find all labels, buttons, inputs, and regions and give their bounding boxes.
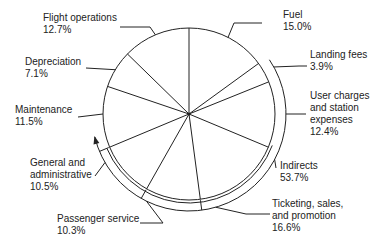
label-maintenance: Maintenance 11.5% bbox=[15, 104, 72, 128]
leader-maintenance bbox=[78, 114, 103, 117]
arrow-icon bbox=[93, 136, 99, 144]
label-fuel: Fuel 15.0% bbox=[283, 9, 311, 33]
label-user-charges: User charges and station expenses 12.4% bbox=[310, 90, 369, 138]
leader-flight bbox=[120, 27, 155, 35]
leader-landing-fees bbox=[274, 66, 307, 67]
label-landing-fees: Landing fees 3.9% bbox=[310, 49, 367, 73]
label-general-admin: General and administrative 10.5% bbox=[30, 157, 92, 193]
pie-body bbox=[103, 28, 275, 200]
label-ticketing: Ticketing, sales, and promotion 16.6% bbox=[272, 198, 343, 234]
leader-fuel bbox=[228, 23, 262, 37]
leader-indirects bbox=[275, 160, 276, 168]
leader-general bbox=[95, 163, 105, 177]
label-flight-operations: Flight operations 12.7% bbox=[43, 12, 117, 36]
leader-depreciation bbox=[86, 68, 115, 70]
label-depreciation: Depreciation 7.1% bbox=[25, 56, 81, 80]
label-passenger-service: Passenger service 10.3% bbox=[57, 213, 139, 237]
leader-passenger bbox=[140, 201, 163, 223]
leader-ticketing bbox=[216, 207, 270, 214]
label-indirects: Indirects 53.7% bbox=[280, 160, 318, 184]
